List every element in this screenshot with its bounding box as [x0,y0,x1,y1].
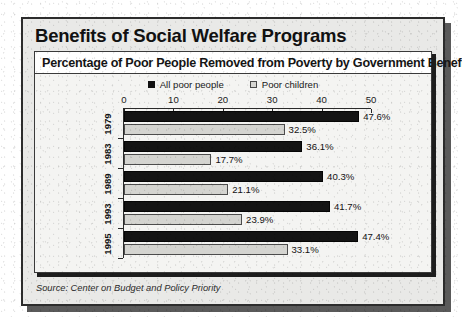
bar-group: 199341.7%23.9% [35,199,431,229]
legend-item: All poor people [148,79,224,90]
x-tick-label: 40 [316,93,327,106]
bar-all-poor-people [124,141,302,152]
chart-panel: Percentage of Poor People Removed from P… [34,51,432,273]
y-category-label: 1993 [102,203,113,224]
bar-value-label: 47.6% [359,111,390,122]
bar-all-poor-people [124,201,330,212]
y-tick-mark [118,198,123,199]
y-category-label: 1989 [102,173,113,194]
chart-frame: Benefits of Social Welfare Programs Perc… [21,17,445,306]
page-title: Benefits of Social Welfare Programs [35,23,431,49]
bar-group: 198336.1%17.7% [35,139,431,169]
bar-group: 198940.3%21.1% [35,169,431,199]
panel-bottom-edge [37,273,436,277]
chart-subtitle: Percentage of Poor People Removed from P… [35,52,431,74]
x-tick-label: 50 [366,93,377,106]
bar-value-label: 41.7% [330,201,361,212]
bar-value-label: 47.4% [358,231,389,242]
chart-page: Benefits of Social Welfare Programs Perc… [0,0,462,317]
bar-group: 197947.6%32.5% [35,109,431,139]
bar-value-label: 33.1% [288,244,319,255]
legend-swatch-icon [250,81,257,88]
bar-value-label: 36.1% [302,141,333,152]
bar-value-label: 17.7% [211,154,242,165]
bar-poor-children [124,124,285,135]
bar-value-label: 40.3% [323,171,354,182]
bar-all-poor-people [124,111,359,122]
legend-swatch-icon [148,81,155,88]
bar-all-poor-people [124,231,358,242]
plot-area: 01020304050 197947.6%32.5%198336.1%17.7%… [35,93,431,272]
y-tick-mark [118,228,123,229]
y-tick-mark [118,258,123,259]
bar-value-label: 23.9% [242,214,273,225]
legend-label: All poor people [160,79,224,90]
x-tick-label: 20 [217,93,228,106]
bar-all-poor-people [124,171,323,182]
y-tick-mark [118,138,123,139]
x-tick-label: 10 [168,93,179,106]
x-tick-label: 30 [267,93,278,106]
legend-label: Poor children [262,79,319,90]
bar-value-label: 21.1% [228,184,259,195]
bar-poor-children [124,184,228,195]
x-tick-label: 0 [121,93,126,106]
y-category-label: 1979 [102,113,113,134]
y-category-label: 1983 [102,143,113,164]
bar-group: 199547.4%33.1% [35,229,431,259]
x-axis-tick-labels: 01020304050 [35,93,431,106]
y-tick-mark [118,168,123,169]
legend-item: Poor children [250,79,319,90]
bar-poor-children [124,154,211,165]
source-note: Source: Center on Budget and Policy Prio… [36,283,221,293]
bar-value-label: 32.5% [285,124,316,135]
bar-poor-children [124,244,288,255]
chart-legend: All poor peoplePoor children [35,76,431,93]
panel-right-edge [432,54,436,276]
y-category-label: 1995 [102,233,113,254]
bar-poor-children [124,214,242,225]
